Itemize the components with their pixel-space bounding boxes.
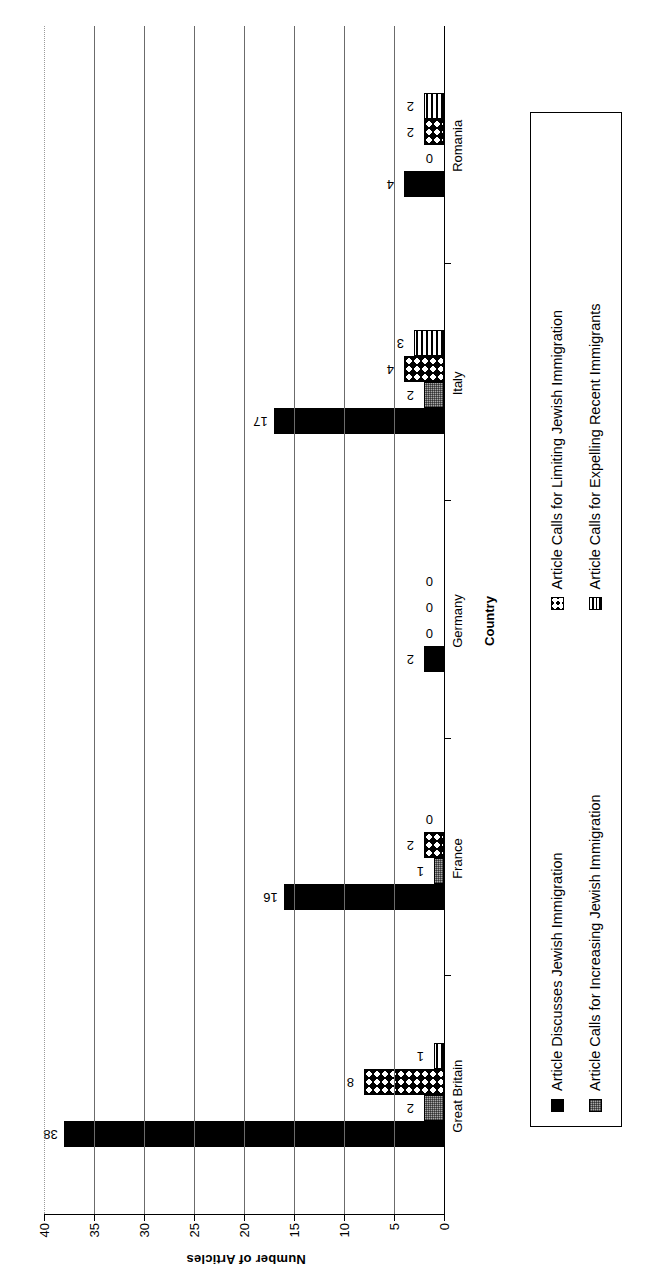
y-tick-label: 35 bbox=[87, 1223, 102, 1237]
y-tick-label: 10 bbox=[337, 1223, 352, 1237]
bar[interactable]: 16 bbox=[284, 884, 444, 910]
axes: 38281161202000172434022 bbox=[44, 26, 445, 1215]
bar-value-label: 1 bbox=[417, 1049, 424, 1064]
y-tick-mark bbox=[94, 1214, 95, 1221]
bar[interactable]: 17 bbox=[274, 408, 444, 434]
bar-value-label: 0 bbox=[426, 626, 433, 641]
legend-label: Article Calls for Limiting Jewish Immigr… bbox=[549, 310, 565, 590]
bar-value-label: 2 bbox=[407, 837, 414, 852]
y-tick-label: 5 bbox=[387, 1223, 402, 1230]
bar[interactable]: 8 bbox=[364, 1069, 444, 1095]
legend-label: Article Calls for Expelling Recent Immig… bbox=[587, 303, 603, 589]
bar[interactable]: 2 bbox=[424, 646, 444, 672]
y-tick-mark bbox=[394, 1214, 395, 1221]
bar-value-label: 3 bbox=[397, 336, 404, 351]
bar[interactable]: 4 bbox=[404, 171, 444, 197]
x-axis-tick-labels: Great BritainFranceGermanyItalyRomania bbox=[450, 27, 476, 1215]
y-tick-mark bbox=[444, 1214, 445, 1221]
bar-value-label: 0 bbox=[426, 574, 433, 589]
bar-value-label: 17 bbox=[253, 414, 267, 429]
y-tick-mark bbox=[144, 1214, 145, 1221]
y-tick-mark bbox=[294, 1214, 295, 1221]
y-axis-tick-labels: 0510152025303540 bbox=[44, 1219, 444, 1259]
legend-swatch-icon bbox=[551, 598, 564, 611]
bar-value-label: 16 bbox=[263, 889, 277, 904]
y-tick-mark bbox=[44, 1214, 45, 1221]
bar[interactable]: 2 bbox=[424, 1095, 444, 1121]
bar[interactable]: 1 bbox=[434, 1043, 444, 1069]
bar[interactable]: 2 bbox=[424, 832, 444, 858]
bar-value-label: 2 bbox=[407, 388, 414, 403]
gridline bbox=[94, 26, 95, 1214]
bar-value-label: 0 bbox=[426, 600, 433, 615]
bar-value-label: 8 bbox=[347, 1075, 354, 1090]
gridline bbox=[194, 26, 195, 1214]
y-tick-label: 0 bbox=[437, 1223, 452, 1230]
bar-value-label: 38 bbox=[43, 1127, 57, 1142]
legend-item[interactable]: Article Calls for Expelling Recent Immig… bbox=[587, 127, 603, 611]
bar[interactable]: 2 bbox=[424, 119, 444, 145]
legend-item[interactable]: Article Calls for Increasing Jewish Immi… bbox=[587, 629, 603, 1113]
bar[interactable]: 3 bbox=[414, 330, 444, 356]
legend-swatch-icon bbox=[589, 1099, 602, 1112]
gridline bbox=[44, 26, 45, 1214]
y-tick-label: 15 bbox=[287, 1223, 302, 1237]
bar-chart-figure: Number of Articles 0510152025303540 3828… bbox=[0, 0, 660, 1277]
x-tick-label: Romania bbox=[450, 27, 476, 265]
y-tick-mark bbox=[344, 1214, 345, 1221]
legend-swatch-icon bbox=[589, 598, 602, 611]
legend-item[interactable]: Article Calls for Limiting Jewish Immigr… bbox=[549, 127, 565, 611]
legend-label: Article Calls for Increasing Jewish Immi… bbox=[587, 794, 603, 1091]
bar-value-label: 2 bbox=[407, 652, 414, 667]
gridline bbox=[294, 26, 295, 1214]
bar[interactable]: 38 bbox=[64, 1121, 444, 1147]
y-tick-mark bbox=[194, 1214, 195, 1221]
legend-item[interactable]: Article Discusses Jewish Immigration bbox=[549, 629, 565, 1113]
x-tick-label: France bbox=[450, 740, 476, 978]
gridline bbox=[144, 26, 145, 1214]
legend-swatch-icon bbox=[551, 1099, 564, 1112]
rotated-figure-container: Number of Articles 0510152025303540 3828… bbox=[0, 0, 660, 1277]
y-tick-label: 40 bbox=[37, 1223, 52, 1237]
plot-area: Number of Articles 0510152025303540 3828… bbox=[0, 0, 492, 1277]
legend: Article Discusses Jewish ImmigrationArti… bbox=[530, 112, 622, 1127]
gridline bbox=[394, 26, 395, 1214]
bar[interactable]: 1 bbox=[434, 858, 444, 884]
bar-value-label: 0 bbox=[426, 811, 433, 826]
bar[interactable]: 2 bbox=[424, 93, 444, 119]
bar[interactable]: 4 bbox=[404, 356, 444, 382]
bar-value-label: 2 bbox=[407, 124, 414, 139]
legend-label: Article Discusses Jewish Immigration bbox=[549, 852, 565, 1091]
y-tick-label: 25 bbox=[187, 1223, 202, 1237]
bar[interactable]: 2 bbox=[424, 382, 444, 408]
y-tick-label: 20 bbox=[237, 1223, 252, 1237]
bar-value-label: 2 bbox=[407, 1101, 414, 1116]
x-axis-title: Country bbox=[482, 27, 497, 1215]
bar-value-label: 2 bbox=[407, 98, 414, 113]
x-tick-label: Italy bbox=[450, 265, 476, 503]
gridline bbox=[344, 26, 345, 1214]
gridline bbox=[244, 26, 245, 1214]
x-tick-label: Great Britain bbox=[450, 977, 476, 1215]
y-tick-label: 30 bbox=[137, 1223, 152, 1237]
bar-value-label: 1 bbox=[417, 863, 424, 878]
y-tick-mark bbox=[244, 1214, 245, 1221]
x-tick-label: Germany bbox=[450, 502, 476, 740]
bar-value-label: 0 bbox=[426, 150, 433, 165]
